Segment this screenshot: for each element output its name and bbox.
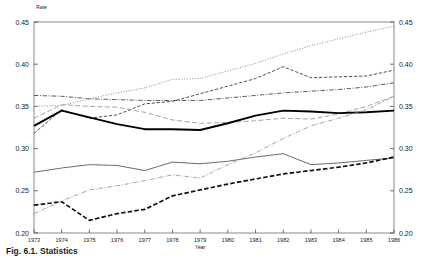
y-tick-label-left: 0.25 — [15, 187, 29, 194]
x-tick-label: 1976 — [111, 237, 123, 243]
series-line-2 — [34, 83, 394, 101]
x-tick-label: 1973 — [28, 237, 40, 243]
x-tick-label: 1978 — [166, 237, 178, 243]
x-tick-label: 1974 — [55, 237, 67, 243]
series-line-3 — [34, 96, 394, 123]
x-tick-label: 1982 — [277, 237, 289, 243]
x-tick-label: 1981 — [249, 237, 261, 243]
series-line-5 — [34, 154, 394, 173]
y-tick-label-left: 0.30 — [15, 145, 29, 152]
x-axis-title: Year — [195, 244, 206, 250]
x-tick-label: 1983 — [305, 237, 317, 243]
series-line-1 — [34, 67, 394, 134]
figure-container: 0.200.200.250.250.300.300.350.350.400.40… — [0, 0, 428, 260]
x-tick-label: 1979 — [194, 237, 206, 243]
x-tick-label: 1975 — [83, 237, 95, 243]
figure-caption: Fig. 6.1. Statistics — [6, 246, 78, 260]
y-tick-label-right: 0.45 — [399, 19, 413, 26]
y-tick-label-left: 0.45 — [15, 19, 29, 26]
x-tick-label: 1984 — [332, 237, 344, 243]
x-tick-label: 1985 — [360, 237, 372, 243]
series-line-6 — [34, 157, 394, 220]
y-tick-label-right: 0.20 — [399, 230, 413, 237]
y-tick-label-left: 0.35 — [15, 103, 29, 110]
series-line-0 — [34, 26, 394, 106]
y-tick-label-right: 0.40 — [399, 61, 413, 68]
x-tick-label: 1980 — [222, 237, 234, 243]
series-line-4 — [34, 111, 394, 130]
x-tick-label: 1986 — [388, 237, 400, 243]
y-tick-label-right: 0.30 — [399, 145, 413, 152]
y-tick-label-right: 0.35 — [399, 103, 413, 110]
y-tick-label-right: 0.25 — [399, 187, 413, 194]
line-chart: 0.200.200.250.250.300.300.350.350.400.40… — [0, 0, 428, 260]
y-tick-label-left: 0.40 — [15, 61, 29, 68]
x-tick-label: 1977 — [139, 237, 151, 243]
y-axis-title: Rate — [36, 4, 47, 10]
